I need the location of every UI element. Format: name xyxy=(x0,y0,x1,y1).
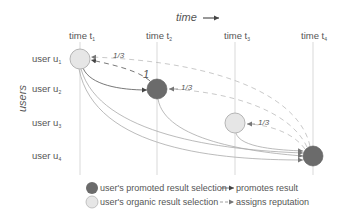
user-label-u4: user u4 xyxy=(32,150,61,162)
node-u2-promoted xyxy=(147,79,167,99)
time-label-t2: time t2 xyxy=(146,30,172,42)
users-axis-label: users xyxy=(16,85,28,112)
reputation-diagram: time time t1 time t2 time t3 time t4 use… xyxy=(0,0,342,220)
user-label-u2: user u2 xyxy=(32,83,61,95)
node-u1-organic xyxy=(70,49,90,69)
rep-edge-u2-to-u1 xyxy=(91,60,150,81)
rep-edge-u4-to-u3 xyxy=(250,124,305,149)
time-gridlines xyxy=(80,42,313,175)
rep-edge-u4-to-u1 xyxy=(91,57,310,146)
edge-label-u4-u2: 1/3 xyxy=(181,83,193,92)
time-column-labels: time t1 time t2 time t3 time t4 xyxy=(69,30,327,42)
legend-reputation-label: assigns reputation xyxy=(236,197,309,207)
node-u4-promoted xyxy=(303,146,323,166)
time-label-t4: time t4 xyxy=(301,30,327,42)
edge-u3-to-u4 xyxy=(236,133,303,151)
promotes-edges xyxy=(79,68,303,160)
edge-label-u2-u1: 1 xyxy=(143,68,149,80)
legend-promoted-icon xyxy=(86,182,98,194)
user-label-u1: user u1 xyxy=(32,53,61,65)
edge-u1-to-u4 xyxy=(81,69,303,153)
time-label-t3: time t3 xyxy=(224,30,250,42)
edge-label-u4-u1: 1/3 xyxy=(113,51,125,60)
legend-organic-icon xyxy=(86,196,98,208)
reputation-edges xyxy=(91,57,310,149)
time-axis-label: time xyxy=(176,11,197,23)
user-label-u3: user u3 xyxy=(32,117,61,129)
user-row-labels: user u1 user u2 user u3 user u4 xyxy=(32,53,61,162)
edge-label-u4-u3: 1/3 xyxy=(258,118,270,127)
legend: user's promoted result selection user's … xyxy=(86,182,309,208)
legend-promoted-label: user's promoted result selection xyxy=(100,183,227,193)
edge-u1-to-u2 xyxy=(83,68,147,90)
legend-organic-label: user's organic result selection xyxy=(100,197,218,207)
node-u3-organic xyxy=(225,113,245,133)
time-label-t1: time t1 xyxy=(69,30,95,42)
legend-promotes-label: promotes result xyxy=(236,183,299,193)
